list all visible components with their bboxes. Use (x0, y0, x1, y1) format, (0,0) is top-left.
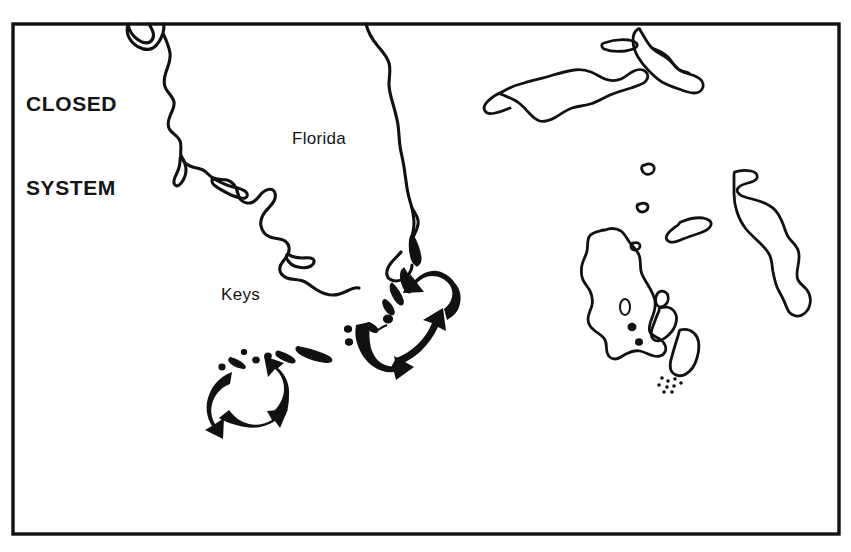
key-largo (409, 235, 421, 265)
map-drawing (0, 0, 851, 552)
grand-bahama (500, 70, 648, 122)
key-dot-2 (345, 326, 352, 332)
middle-keys-sliver (296, 347, 332, 363)
matecumbe-key (383, 300, 395, 315)
exuma-cay-2 (670, 329, 699, 375)
key-tail-hook (378, 325, 387, 330)
lower-gyre (205, 356, 289, 439)
exuma-dots (657, 376, 683, 394)
upper-gyre-arrow-left (355, 322, 414, 380)
west-florida-coast (127, 24, 359, 295)
title-line-2: SYSTEM (26, 174, 117, 202)
key-dot-6 (219, 364, 225, 370)
exuma-cay-3 (656, 291, 669, 307)
east-florida-coast (366, 24, 417, 265)
lower-gyre-arrow-right (264, 356, 289, 416)
small-cay-2 (637, 203, 648, 212)
new-providence (666, 218, 711, 243)
key-dot-7 (241, 350, 246, 355)
upper-gyre-arrow-top (403, 271, 461, 320)
upper-keys-sliver-2 (390, 283, 403, 305)
small-cay-1 (642, 164, 655, 174)
map-label-florida: Florida (292, 129, 346, 149)
figure-title: CLOSED SYSTEM (26, 34, 117, 258)
eleuthera (734, 170, 810, 316)
figure-border (13, 24, 839, 534)
key-dot-3 (346, 339, 353, 345)
bahamas-group (484, 29, 810, 376)
key-dot-5 (253, 357, 259, 363)
ten-thousand-islands (286, 254, 314, 268)
closed-system-map-figure: CLOSED SYSTEM Florida Keys (0, 0, 851, 552)
lower-gyre-arrow-left (205, 372, 232, 439)
title-line-1: CLOSED (26, 90, 117, 118)
key-west-sliver (229, 358, 246, 369)
charlotte-harbour-spur (174, 156, 186, 186)
upper-gyre-arrow-right (390, 308, 446, 369)
coastline-group (127, 24, 418, 295)
map-label-keys: Keys (221, 285, 260, 305)
key-dot-1 (384, 315, 393, 323)
bahamas-small-cays (620, 299, 642, 345)
